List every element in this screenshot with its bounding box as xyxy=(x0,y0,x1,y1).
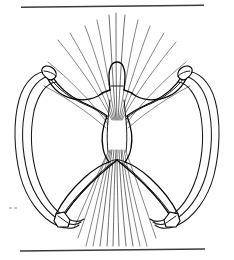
canvas-background xyxy=(0,0,234,260)
artwork-canvas: Winged Figure Line Drawing Monochrome pe… xyxy=(0,0,234,260)
